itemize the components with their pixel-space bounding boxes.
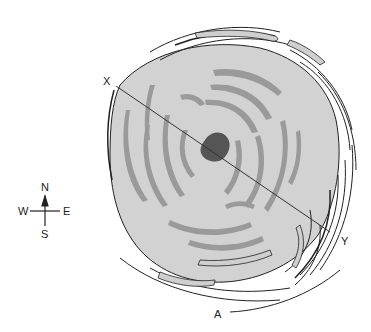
figure-caption: A bbox=[214, 309, 221, 320]
section-start-label: X bbox=[103, 76, 110, 87]
compass-north-label: N bbox=[41, 182, 49, 193]
compass-south-label: S bbox=[41, 229, 48, 240]
section-end-label: Y bbox=[341, 236, 348, 247]
diagram-canvas: X Y N S W E A bbox=[0, 0, 371, 332]
spiral-storm-diagram bbox=[0, 0, 371, 332]
north-arrow-icon bbox=[42, 196, 48, 206]
compass-west-label: W bbox=[18, 206, 28, 217]
compass-east-label: E bbox=[63, 206, 70, 217]
compass-rose bbox=[30, 196, 60, 226]
